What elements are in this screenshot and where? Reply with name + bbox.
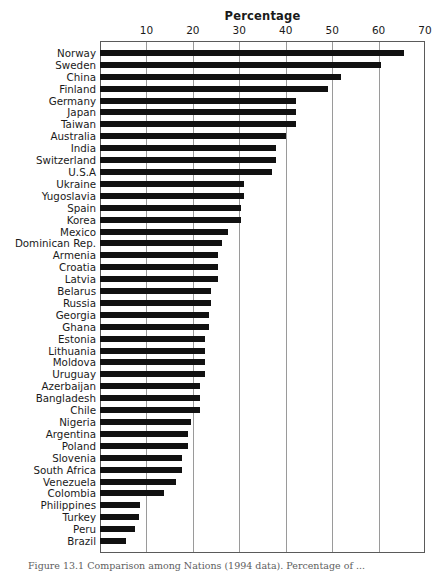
figure-container: Percentage 10203040506070 NorwaySwedenCh…	[0, 0, 447, 574]
category-label: Norway	[57, 48, 96, 58]
bar	[100, 109, 296, 115]
bar	[100, 98, 296, 104]
bar	[100, 431, 188, 437]
bar	[100, 133, 286, 139]
category-label: Korea	[67, 214, 96, 224]
bar-row: Venezuela	[0, 476, 447, 488]
bar-row: Armenia	[0, 249, 447, 261]
bar	[100, 145, 276, 151]
category-label: South Africa	[33, 464, 96, 474]
bar	[100, 526, 135, 532]
bar	[100, 121, 296, 127]
category-label: Latvia	[65, 274, 96, 284]
bar-row: Sweden	[0, 59, 447, 71]
bar	[100, 455, 182, 461]
bar-row: Brazil	[0, 535, 447, 547]
bar-row: Turkey	[0, 511, 447, 523]
bar	[100, 359, 205, 365]
bar	[100, 407, 200, 413]
bar-row: Latvia	[0, 273, 447, 285]
bar-row: Korea	[0, 214, 447, 226]
bar-rows: NorwaySwedenChinaFinlandGermanyJapanTaiw…	[0, 41, 447, 553]
category-label: Peru	[73, 524, 96, 534]
bar-row: Argentina	[0, 428, 447, 440]
category-label: Sweden	[55, 60, 96, 70]
bar-row: Japan	[0, 106, 447, 118]
bar	[100, 443, 188, 449]
x-tick-label-60: 60	[372, 24, 385, 36]
category-label: Chile	[70, 405, 96, 415]
bar-row: Colombia	[0, 488, 447, 500]
category-label: Turkey	[62, 512, 96, 522]
bar	[100, 336, 205, 342]
category-label: Mexico	[60, 226, 96, 236]
bar-row: Ukraine	[0, 178, 447, 190]
bar	[100, 276, 218, 282]
category-label: Croatia	[59, 262, 96, 272]
bar-row: Spain	[0, 202, 447, 214]
category-label: Belarus	[57, 286, 96, 296]
bar	[100, 502, 140, 508]
bar-row: Georgia	[0, 309, 447, 321]
category-label: Finland	[59, 83, 96, 93]
bar	[100, 62, 381, 68]
x-tick-label-40: 40	[279, 24, 292, 36]
category-label: Australia	[50, 131, 96, 141]
category-label: U.S.A	[68, 167, 96, 177]
category-label: Japan	[67, 107, 96, 117]
category-label: Uruguay	[52, 369, 96, 379]
bar	[100, 467, 182, 473]
bar	[100, 538, 126, 544]
bar	[100, 74, 341, 80]
bar-row: India	[0, 142, 447, 154]
category-label: Philippines	[41, 500, 96, 510]
x-tick-label-20: 20	[186, 24, 199, 36]
category-label: Colombia	[48, 488, 96, 498]
bar-row: Philippines	[0, 499, 447, 511]
chart-title: Percentage	[100, 9, 425, 23]
bar	[100, 252, 218, 258]
bar-row: Russia	[0, 297, 447, 309]
bar-row: Bangladesh	[0, 392, 447, 404]
category-label: Dominican Rep.	[15, 238, 96, 248]
bar	[100, 288, 211, 294]
category-label: Bangladesh	[36, 393, 96, 403]
category-label: Venezuela	[43, 476, 96, 486]
category-label: Estonia	[58, 334, 96, 344]
bar-row: Estonia	[0, 333, 447, 345]
category-label: Ghana	[62, 322, 96, 332]
x-tick-label-50: 50	[325, 24, 338, 36]
bar	[100, 312, 209, 318]
bar-row: Mexico	[0, 226, 447, 238]
bar	[100, 300, 211, 306]
bar	[100, 514, 139, 520]
bar-row: Peru	[0, 523, 447, 535]
bar-row: Taiwan	[0, 118, 447, 130]
bar-row: Australia	[0, 130, 447, 142]
bar	[100, 383, 200, 389]
bar-row: Moldova	[0, 357, 447, 369]
category-label: Brazil	[67, 536, 96, 546]
category-label: Nigeria	[59, 417, 96, 427]
category-label: Germany	[49, 95, 96, 105]
bar	[100, 181, 244, 187]
category-label: Switzerland	[36, 155, 96, 165]
bar-row: Belarus	[0, 285, 447, 297]
bar-row: Azerbaijan	[0, 380, 447, 392]
bar-row: Lithuania	[0, 345, 447, 357]
bar-row: Chile	[0, 404, 447, 416]
bar-row: Slovenia	[0, 452, 447, 464]
bar	[100, 229, 228, 235]
bar	[100, 324, 209, 330]
bar	[100, 50, 404, 56]
category-label: Ukraine	[56, 179, 96, 189]
figure-caption: Figure 13.1 Comparison among Nations (19…	[28, 560, 438, 571]
category-label: Georgia	[56, 310, 96, 320]
bar-row: Norway	[0, 47, 447, 59]
bar	[100, 264, 218, 270]
bar	[100, 479, 176, 485]
bar	[100, 490, 164, 496]
bar	[100, 193, 244, 199]
bar-row: China	[0, 71, 447, 83]
bar	[100, 240, 222, 246]
